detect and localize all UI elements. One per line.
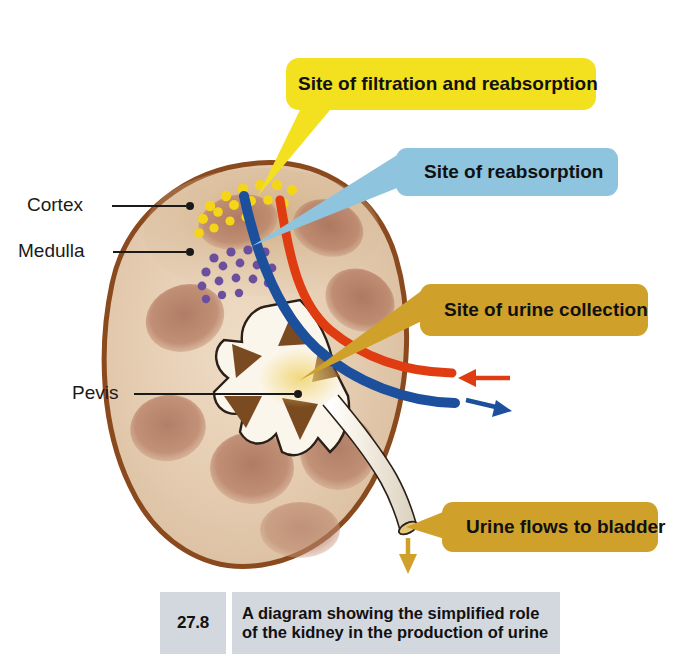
annotation-pelvis-endpoint: [294, 390, 302, 398]
callout-filtration-label: Site of filtration and reabsorption: [298, 73, 598, 94]
figure-caption-text: A diagram showing the simplified role of…: [242, 604, 554, 643]
figure-number: 27.8: [177, 613, 209, 633]
callout-urine-flow[interactable]: Urine flows to bladder: [406, 502, 666, 552]
callout-urine-flow-label: Urine flows to bladder: [466, 516, 666, 537]
annotation-cortex-endpoint: [186, 202, 194, 210]
figure-number-box: 27.8: [160, 592, 226, 654]
kidney-figure: Site of filtration and reabsorption Site…: [0, 0, 680, 659]
annotation-medulla-endpoint: [186, 248, 194, 256]
annotation-cortex-label: Cortex: [27, 194, 83, 215]
annotation-medulla-label: Medulla: [18, 240, 85, 261]
kidney-diagram-canvas: Site of filtration and reabsorption Site…: [0, 0, 680, 659]
annotation-pelvis-label: Pevis: [72, 382, 118, 403]
artery-inflow-arrow: [458, 369, 510, 387]
callout-reabsorption-label: Site of reabsorption: [424, 161, 603, 182]
pyramid-blob: [260, 502, 340, 558]
callout-urine-collection-label: Site of urine collection: [444, 299, 648, 320]
figure-caption-box: A diagram showing the simplified role of…: [232, 592, 560, 654]
vein-outflow-arrow: [466, 400, 512, 417]
urine-outflow-arrow: [399, 538, 417, 574]
figure-caption-bar: 27.8 A diagram showing the simplified ro…: [160, 592, 560, 654]
